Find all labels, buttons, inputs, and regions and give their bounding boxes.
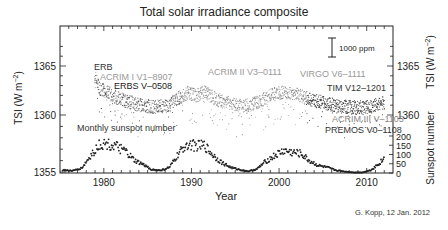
y-tick-label: 1360 <box>34 110 57 121</box>
scale-bar-label: 1000 ppm <box>339 44 375 53</box>
right-y-axis-label-tsi: TSI (W m−2) <box>424 35 436 89</box>
right-y-axis-ticks: 13601365050100150200 <box>387 46 420 178</box>
annotation-label: VIRGO V6–1111 <box>300 69 366 79</box>
annotation-label: ERBS V–0508 <box>114 81 172 91</box>
annotation-label: ERB <box>94 62 113 72</box>
sunspot-tick-label: 0 <box>396 169 401 179</box>
chart-canvas: 1980199020002010 135513601365 1360136505… <box>0 0 448 230</box>
svg-text:TSI (W m−2): TSI (W m−2) <box>12 71 24 125</box>
x-tick-label: 2000 <box>268 177 291 188</box>
scale-bar: 1000 ppm <box>328 38 375 57</box>
right-y-axis-label-sunspot: Sunspot number <box>425 111 436 185</box>
svg-text:TSI (W m−2): TSI (W m−2) <box>424 35 436 89</box>
x-tick-label: 1990 <box>180 177 203 188</box>
annotation-label: ACRIM II V3–0111 <box>208 67 282 77</box>
right-tsi-tick-label: 1365 <box>397 61 420 72</box>
sunspot-tick-label: 50 <box>396 159 406 169</box>
left-y-axis-label: TSI (W m−2) <box>12 71 24 125</box>
annotation-label: ACRIM III V–1105 <box>332 114 404 124</box>
sunspot-tick-label: 150 <box>396 141 411 151</box>
x-axis-label: Year <box>215 190 238 202</box>
sunspot-tick-label: 100 <box>396 150 411 160</box>
x-tick-label: 2010 <box>356 177 379 188</box>
credit-text: G. Kopp, 12 Jan. 2012 <box>355 208 430 217</box>
sunspot-series <box>62 138 385 173</box>
y-tick-label: 1355 <box>34 167 57 178</box>
annotations: ERBACRIM I V1–8907ERBS V–0508ACRIM II V3… <box>77 62 404 135</box>
annotation-label: PREMOS V0–1108 <box>325 125 402 135</box>
y-tick-label: 1365 <box>34 61 57 72</box>
x-tick-label: 1980 <box>93 177 116 188</box>
annotation-label: TIM V12–1201 <box>327 83 386 93</box>
annotation-label: Monthly sunspot number <box>77 123 176 133</box>
left-y-axis-ticks: 135513601365 <box>34 46 66 178</box>
svg-text:Sunspot number: Sunspot number <box>425 111 436 185</box>
